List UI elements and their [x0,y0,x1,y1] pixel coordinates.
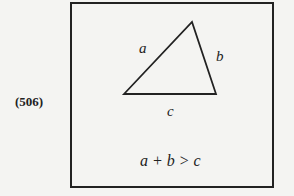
side-label-c: c [167,103,174,120]
inequality: a + b > c [140,152,201,170]
side-label-b: b [216,48,224,65]
side-label-a: a [139,40,147,57]
